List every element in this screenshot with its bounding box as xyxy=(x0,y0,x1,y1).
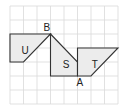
point-label-a: A xyxy=(77,77,84,88)
shape-label-s: S xyxy=(63,59,70,70)
shape-label-t: T xyxy=(92,59,98,70)
diagram-canvas: UST BA xyxy=(0,0,124,111)
shape-label-u: U xyxy=(21,45,28,56)
point-label-b: B xyxy=(44,22,51,33)
